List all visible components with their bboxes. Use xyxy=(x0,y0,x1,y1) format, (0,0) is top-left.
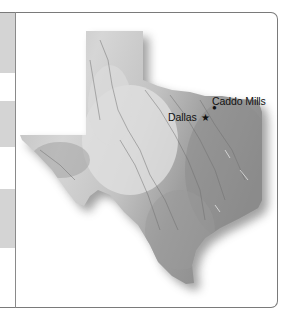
dot-icon: ● xyxy=(212,103,217,112)
stripe-white xyxy=(0,248,15,307)
stripe-gray xyxy=(0,13,15,73)
star-icon: ★ xyxy=(201,112,210,123)
texas-relief-map xyxy=(16,13,278,307)
stripe-white xyxy=(0,147,15,189)
stripe-gray xyxy=(0,101,15,147)
stripe-gray xyxy=(0,189,15,248)
stripe-white xyxy=(0,73,15,101)
map-label-dallas: Dallas xyxy=(168,111,197,123)
sidebar-stripes xyxy=(0,13,15,307)
map-canvas: Caddo Mills ● Dallas ★ xyxy=(16,13,278,307)
map-label-caddo-mills: Caddo Mills xyxy=(212,95,266,107)
